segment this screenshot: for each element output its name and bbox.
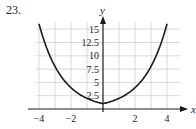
x-tick-label: −2 [66, 113, 77, 124]
y-tick-label: 12.5 [82, 37, 100, 48]
chart: xy−4−2242.557.51012.515 [0, 0, 196, 129]
y-tick-label: 15 [89, 24, 99, 35]
y-axis-label: y [99, 4, 105, 16]
x-tick-label: 2 [133, 113, 138, 124]
y-tick-label: 7.5 [87, 64, 100, 75]
x-axis-arrow-icon [180, 106, 188, 112]
x-tick-label: 4 [165, 113, 170, 124]
x-tick-label: −4 [34, 113, 45, 124]
y-axis-arrow-icon [100, 16, 106, 24]
y-tick-label: 5 [94, 77, 99, 88]
x-axis-label: x [190, 103, 196, 115]
y-tick-label: 10 [89, 50, 99, 61]
